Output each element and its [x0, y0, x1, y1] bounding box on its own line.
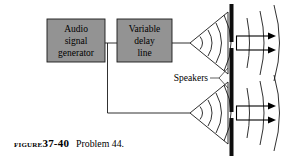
arrow-bottom-upper-head [268, 103, 276, 110]
barrier-segment-top [230, 4, 234, 42]
speaker-bottom [190, 82, 231, 144]
caption-problem-text: Problem 44. [76, 138, 124, 149]
caption-figure-word: Figure [14, 139, 42, 149]
transmitted-waves-top [247, 5, 280, 81]
delay-line-label-2: delay [134, 36, 155, 46]
block-audio-signal-generator: Audio signal generator [47, 19, 105, 62]
speaker-top-cone [190, 12, 228, 74]
delay-line-label-3: line [137, 48, 151, 58]
audio-generator-line-1: Audio [64, 24, 88, 34]
caption-figure-number: 37-40 [42, 137, 69, 149]
figure-container: Audio signal generator Variable delay li… [0, 0, 289, 160]
block-variable-delay-line: Variable delay line [117, 19, 172, 62]
transmitted-bottom-arc-2 [260, 81, 264, 145]
arrow-top-upper-head [268, 33, 276, 40]
transmitted-top-arc-2 [260, 11, 264, 75]
audio-generator-line-2: signal [65, 36, 88, 46]
arrow-group-top [236, 33, 276, 54]
barrier-group [230, 4, 234, 156]
speaker-bottom-cone [190, 82, 228, 144]
transmitted-bottom-arc-1 [247, 88, 250, 138]
arrow-group-bottom [236, 103, 276, 124]
delay-line-label-1: Variable [129, 24, 161, 34]
transmitted-top-arc-1 [247, 18, 250, 68]
arrow-top-lower-head [268, 47, 276, 54]
speaker-top [190, 12, 231, 74]
figure-caption: Figure37-40Problem 44. [14, 133, 124, 151]
transmitted-bottom-arc-3 [274, 75, 280, 151]
transmitted-waves-bottom [247, 75, 280, 151]
audio-generator-line-3: generator [58, 48, 95, 58]
speakers-annotation: Speakers [174, 68, 228, 88]
transmitted-top-arc-3 [274, 5, 280, 81]
barrier-segment-middle [230, 48, 234, 112]
barrier-segment-bottom [230, 118, 234, 156]
speakers-label: Speakers [174, 73, 209, 83]
arrow-bottom-lower-head [268, 117, 276, 124]
